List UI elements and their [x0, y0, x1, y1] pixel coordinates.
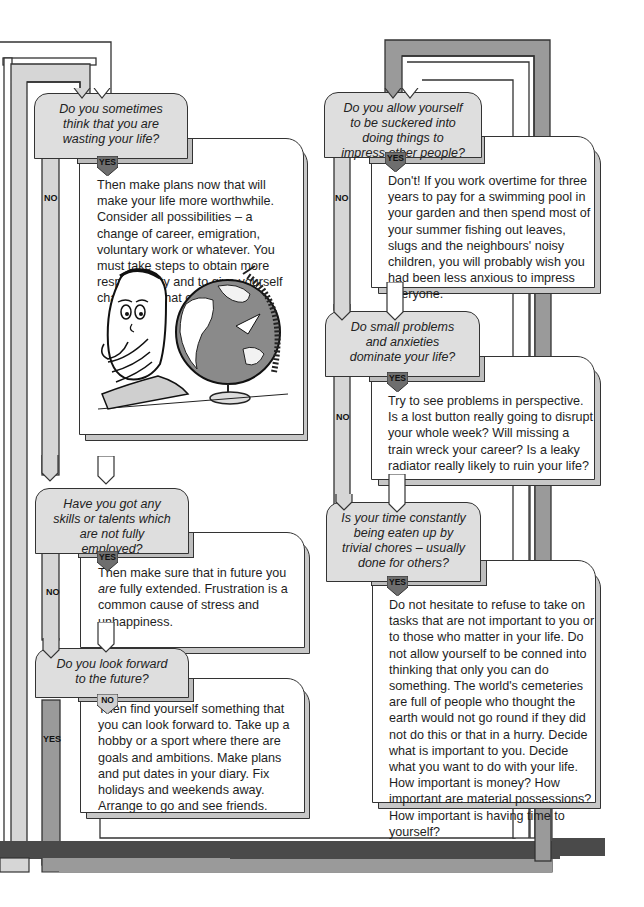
question-text: Is your time constantly being eaten up b… [341, 511, 465, 570]
yes-branch-label: YES [43, 734, 61, 744]
no-branch-label: NO [46, 587, 60, 597]
answer-text: Try to see problems in perspective. Is a… [388, 393, 594, 474]
no-branch-label: NO [336, 412, 350, 422]
answer-card-wasting-life: Then make plans now that will make your … [79, 138, 304, 435]
question-text: Do you sometimes think that you are wast… [59, 102, 163, 146]
no-branch-label: NO [335, 193, 349, 203]
yes-branch-tag: YES [97, 156, 118, 176]
question-text: Do you look forward to the future? [56, 657, 167, 686]
inflow-arrow-icon [384, 88, 424, 100]
yes-branch-tag: YES [385, 152, 406, 172]
yes-branch-tag: YES [387, 372, 408, 392]
cartoon-man-with-globe-illustration [98, 264, 288, 414]
answer-card-trivial-chores: Do not hesitate to refuse to take on tas… [372, 560, 596, 803]
answer-text: Then find yourself something that you ca… [98, 701, 298, 814]
yes-branch-tag: YES [387, 576, 408, 596]
flow-arrow-icon [38, 455, 98, 500]
flow-arrow-icon [385, 282, 407, 322]
no-branch-tag: NO [97, 694, 118, 714]
question-box-suckered: Do you allow yourself to be suckered int… [324, 92, 482, 158]
answer-text: Don't! If you work overtime for three ye… [388, 173, 594, 303]
question-text: Do small problems and anxieties dominate… [350, 320, 456, 364]
no-branch-label: NO [44, 193, 58, 203]
question-box-wasting-life: Do you sometimes think that you are wast… [34, 93, 188, 159]
inflow-arrow-icon [72, 88, 120, 100]
flow-arrow-icon [332, 304, 356, 328]
flow-arrow-icon [96, 456, 118, 501]
answer-text: Do not hesitate to refuse to take on tas… [389, 597, 595, 840]
flow-arrow-icon [387, 474, 409, 514]
yes-branch-tag: YES [97, 551, 118, 571]
flow-arrow-icon [40, 638, 64, 668]
flow-arrow-icon [96, 622, 118, 658]
flow-arrow-icon [334, 494, 358, 518]
question-text: Have you got any skills or talents which… [53, 497, 170, 556]
answer-text: Then make sure that in future you are fu… [98, 565, 298, 630]
